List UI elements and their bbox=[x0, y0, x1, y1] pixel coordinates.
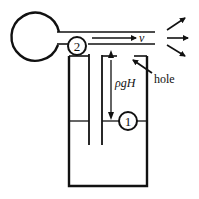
spray-arrow-up bbox=[167, 18, 185, 30]
spray-arrows bbox=[167, 18, 188, 56]
point-2-label: 2 bbox=[74, 39, 81, 54]
hole-pointer-arrow bbox=[133, 60, 152, 73]
pressure-head-arrow-down bbox=[108, 112, 114, 120]
hole-label: hole bbox=[154, 72, 175, 86]
pressure-head-label: ρgH bbox=[114, 76, 137, 90]
squeeze-bulb bbox=[11, 13, 59, 61]
point-1-label: 1 bbox=[125, 114, 132, 129]
velocity-label: v bbox=[139, 31, 145, 45]
spray-arrow-down bbox=[167, 45, 185, 56]
sprayer-diagram: v 2 ρgH 1 hole bbox=[0, 0, 199, 199]
pressure-head-arrow-up bbox=[108, 50, 114, 58]
